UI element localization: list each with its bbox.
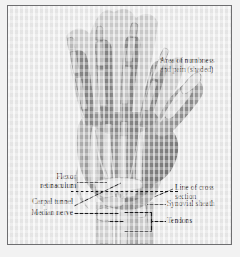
artwork-body (66, 9, 203, 244)
figure-carpal-tunnel: Flexor retinaculum Carpal tunnel Median … (0, 0, 240, 257)
illustration-plate: Flexor retinaculum Carpal tunnel Median … (7, 5, 232, 245)
label-carpal-tunnel: Carpal tunnel (11, 198, 73, 207)
leader-median-nerve (74, 213, 119, 214)
label-area-of-numbness: Area of numbness and pain (shaded) (160, 57, 230, 74)
cross-section-dashed-line (71, 191, 178, 192)
leader-tendons-bracket-stem (108, 221, 124, 222)
label-tendons: Tendons (167, 217, 217, 226)
label-synovial-sheath: Synovial sheath (167, 200, 232, 209)
tendons-bracket (124, 212, 152, 232)
leader-carpal-tunnel (74, 182, 122, 207)
leader-tendons (151, 221, 166, 222)
leader-synovial-sheath (147, 204, 166, 205)
label-median-nerve: Median nerve (11, 209, 73, 218)
leader-line-of-cross-section (154, 187, 174, 199)
median-nerve (109, 202, 114, 244)
label-flexor-retinaculum: Flexor retinaculum (16, 173, 76, 190)
